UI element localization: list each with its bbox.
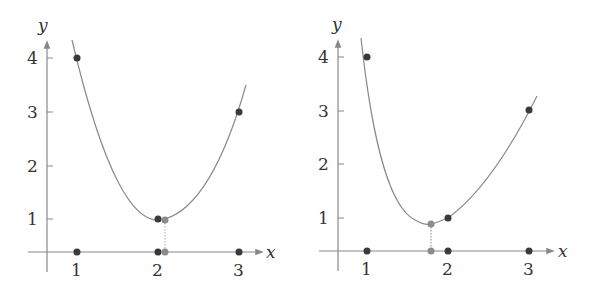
data-point (526, 107, 533, 114)
figure: x y 4 3 2 1 1 2 3 x (0, 0, 594, 302)
axis-point (445, 248, 452, 255)
data-point (74, 55, 81, 62)
y-tick-2: 2 (318, 154, 329, 174)
minimum-point (162, 217, 169, 224)
y-axis-label: y (37, 15, 48, 35)
right-chart: x y 4 3 2 1 1 2 3 (318, 14, 568, 279)
y-tick-4: 4 (27, 48, 38, 68)
y-tick-1: 1 (27, 209, 38, 229)
curve (72, 40, 246, 220)
axis-point (526, 248, 533, 255)
y-tick-4: 4 (318, 47, 329, 67)
y-tick-3: 3 (27, 102, 38, 122)
data-point (364, 54, 371, 61)
axis-point (364, 248, 371, 255)
minimum-point (428, 221, 435, 228)
axis-point (155, 249, 162, 256)
data-point (155, 216, 162, 223)
x-tick-1: 1 (361, 259, 372, 279)
axis-point (74, 249, 81, 256)
x-axis-label: x (266, 242, 276, 262)
x-tick-3: 3 (233, 260, 244, 280)
minimum-axis-point (162, 249, 169, 256)
y-axis-label: y (331, 14, 342, 34)
x-tick-1: 1 (71, 260, 82, 280)
y-tick-2: 2 (27, 156, 38, 176)
x-tick-2: 2 (442, 259, 453, 279)
data-point (236, 109, 243, 116)
data-point (445, 215, 452, 222)
left-chart: x y 4 3 2 1 1 2 3 (27, 15, 276, 280)
x-tick-3: 3 (523, 259, 534, 279)
curve (361, 38, 537, 224)
minimum-axis-point (428, 248, 435, 255)
y-tick-3: 3 (318, 101, 329, 121)
y-tick-1: 1 (318, 208, 329, 228)
x-tick-2: 2 (152, 260, 163, 280)
axis-point (236, 249, 243, 256)
x-axis-label: x (558, 241, 568, 261)
